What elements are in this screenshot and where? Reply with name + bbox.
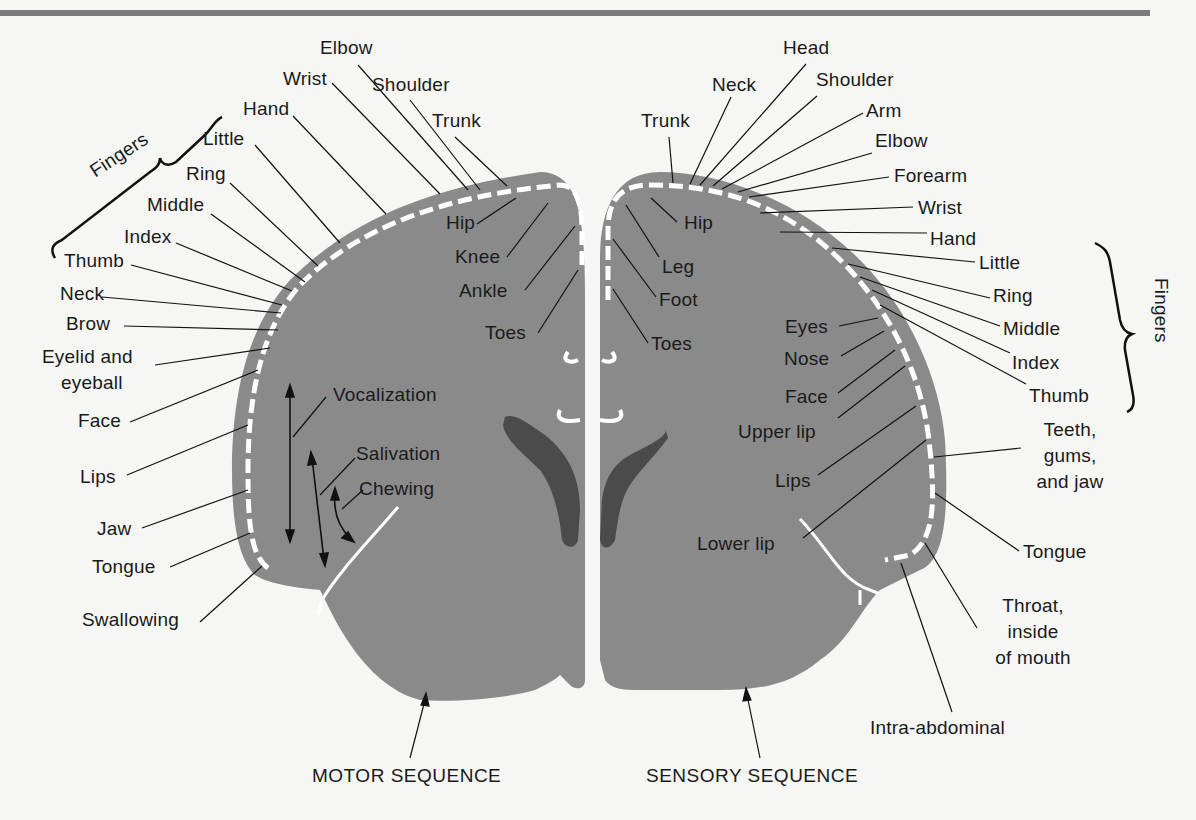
sensory-label-inside: inside xyxy=(978,621,1088,643)
sensory-label-index: Index xyxy=(1012,352,1059,374)
sensory-label-hip: Hip xyxy=(684,212,713,234)
sensory-label-leg: Leg xyxy=(662,256,694,278)
sensory-label-arm: Arm xyxy=(866,100,901,122)
sensory-label-upper-lip: Upper lip xyxy=(738,421,816,443)
sensory-label-forearm: Forearm xyxy=(894,165,967,187)
sensory-label-nose: Nose xyxy=(784,348,829,370)
motor-label-lips: Lips xyxy=(80,466,116,488)
motor-label-trunk: Trunk xyxy=(432,110,481,132)
motor-label-ankle: Ankle xyxy=(459,280,508,302)
sensory-label-throat: Throat, xyxy=(978,595,1088,617)
sensory-label-lower-lip: Lower lip xyxy=(697,533,775,555)
motor-label-eyeball: eyeball xyxy=(61,372,123,394)
motor-label-toes: Toes xyxy=(485,322,526,344)
motor-label-index: Index xyxy=(124,226,171,248)
motor-label-chewing: Chewing xyxy=(359,478,434,500)
motor-label-wrist: Wrist xyxy=(283,68,327,90)
motor-label-knee: Knee xyxy=(455,246,500,268)
sensory-label-ring: Ring xyxy=(993,285,1033,307)
sensory-label-thumb: Thumb xyxy=(1029,385,1089,407)
sensory-label-little: Little xyxy=(979,252,1020,274)
sensory-label-hand: Hand xyxy=(930,228,976,250)
sensory-label-foot: Foot xyxy=(659,289,698,311)
sensory-label-and-jaw: and jaw xyxy=(1025,471,1115,493)
sensory-fingers-label: Fingers xyxy=(1150,278,1172,343)
sensory-label-intra-abdominal: Intra-abdominal xyxy=(870,717,1005,739)
sensory-label-eyes: Eyes xyxy=(785,316,828,338)
motor-label-swallowing: Swallowing xyxy=(82,609,179,631)
motor-label-little: Little xyxy=(203,128,244,150)
sensory-label-face: Face xyxy=(785,386,828,408)
brain-cross-section xyxy=(0,0,1196,820)
sensory-label-toes: Toes xyxy=(651,333,692,355)
sensory-sequence-caption: SENSORY SEQUENCE xyxy=(646,765,858,787)
motor-label-elbow: Elbow xyxy=(320,37,373,59)
sensory-label-neck: Neck xyxy=(712,74,756,96)
motor-label-middle: Middle xyxy=(147,194,204,216)
sensory-label-shoulder: Shoulder xyxy=(816,69,894,91)
sensory-label-trunk: Trunk xyxy=(641,110,690,132)
sensory-label-of-mouth: of mouth xyxy=(978,647,1088,669)
motor-label-salivation: Salivation xyxy=(356,443,440,465)
sensory-label-wrist: Wrist xyxy=(918,197,962,219)
motor-label-thumb: Thumb xyxy=(64,250,124,272)
motor-label-neck: Neck xyxy=(60,283,104,305)
motor-label-shoulder: Shoulder xyxy=(372,74,450,96)
motor-label-tongue: Tongue xyxy=(92,556,156,578)
sensory-label-tongue: Tongue xyxy=(1023,541,1087,563)
motor-label-hip: Hip xyxy=(446,212,475,234)
motor-label-vocalization: Vocalization xyxy=(333,384,437,406)
motor-sequence-caption: MOTOR SEQUENCE xyxy=(312,765,501,787)
motor-label-brow: Brow xyxy=(66,313,110,335)
sensory-label-gums: gums, xyxy=(1030,445,1110,467)
sensory-label-middle: Middle xyxy=(1003,318,1060,340)
sensory-label-teeth: Teeth, xyxy=(1030,419,1110,441)
sensory-label-elbow: Elbow xyxy=(875,130,928,152)
sensory-label-head: Head xyxy=(783,37,829,59)
sensory-fingers-brace xyxy=(1095,243,1134,412)
sensory-label-lips: Lips xyxy=(775,470,811,492)
motor-label-hand: Hand xyxy=(243,98,289,120)
motor-label-ring: Ring xyxy=(186,163,226,185)
motor-label-face: Face xyxy=(78,410,121,432)
motor-label-eyelid-and: Eyelid and xyxy=(42,346,133,368)
motor-label-jaw: Jaw xyxy=(97,518,131,540)
